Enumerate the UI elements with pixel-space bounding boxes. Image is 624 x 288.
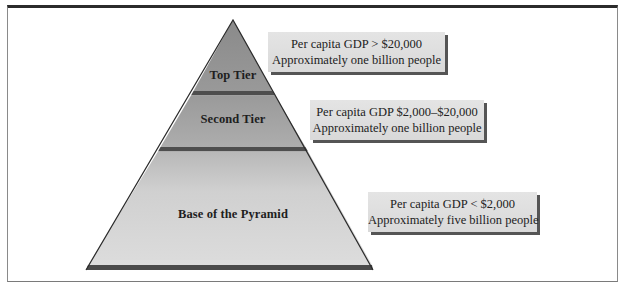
tier-label-second: Second Tier: [173, 112, 293, 127]
tier-divider-1: [191, 91, 275, 96]
info-box-base-tier: Per capita GDP < $2,000 Approximately fi…: [368, 192, 537, 232]
gdp-text: Per capita GDP > $20,000: [268, 36, 445, 52]
info-box-top-tier: Per capita GDP > $20,000 Approximately o…: [268, 32, 445, 72]
gdp-text: Per capita GDP < $2,000: [368, 196, 537, 212]
population-text: Approximately one billion people: [268, 52, 445, 68]
pyramid-base-band: [86, 265, 373, 270]
population-text: Approximately five billion people: [368, 212, 537, 228]
tier-label-base: Base of the Pyramid: [133, 207, 333, 222]
gdp-text: Per capita GDP $2,000–$20,000: [310, 104, 484, 120]
info-box-second-tier: Per capita GDP $2,000–$20,000 Approximat…: [310, 100, 484, 140]
population-text: Approximately one billion people: [310, 120, 484, 136]
tier-divider-2: [158, 147, 308, 152]
